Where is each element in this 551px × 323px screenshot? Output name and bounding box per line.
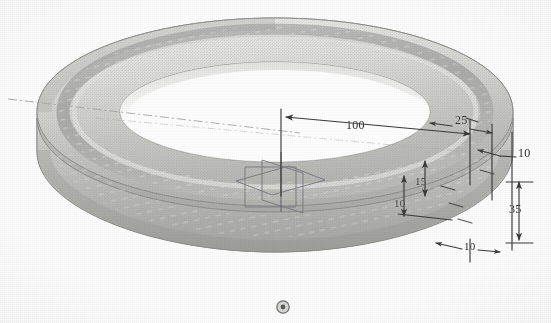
dim-line-10-bottom-l [436, 243, 462, 249]
dim-label-35: 35 [509, 202, 522, 217]
cad-viewport[interactable]: 100 25 10 15 10 35 10 [0, 0, 551, 323]
dim-label-10-mid: 10 [394, 197, 406, 209]
tick-c [458, 219, 472, 223]
dim-label-10-bottom: 10 [464, 240, 476, 252]
dim-label-10-right: 10 [518, 146, 531, 161]
cad-drawing [0, 0, 551, 323]
dim-label-100: 100 [346, 118, 365, 133]
ring-solid [37, 18, 513, 252]
dim-label-25: 25 [455, 113, 468, 128]
rotation-center-marker[interactable] [277, 301, 289, 313]
dim-label-15: 15 [415, 175, 427, 187]
dim-line-10-bottom-r [478, 250, 500, 252]
